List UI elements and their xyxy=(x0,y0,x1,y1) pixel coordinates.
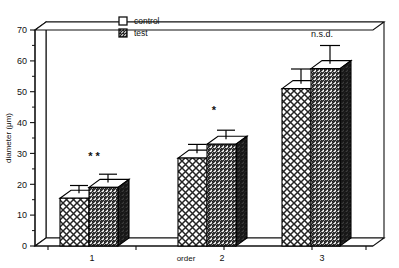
legend-item-test[interactable]: test xyxy=(119,28,148,38)
bar-test-3[interactable] xyxy=(311,61,351,246)
bar-side-face xyxy=(236,136,247,246)
y-tick-label-50: 50 xyxy=(17,87,27,97)
crosshatch-swatch-icon xyxy=(119,17,127,25)
hatch-swatch-icon xyxy=(119,29,127,37)
x-axis: 1 2 3 order xyxy=(35,246,373,263)
bar-test-2[interactable] xyxy=(207,136,247,246)
y-tick-label-0: 0 xyxy=(22,241,27,251)
bar-front-face xyxy=(282,89,311,246)
y-tick-label-10: 10 xyxy=(17,210,27,220)
legend-label-control: control xyxy=(134,16,160,26)
legend-item-control[interactable]: control xyxy=(119,16,160,26)
bar-front-face xyxy=(311,69,340,246)
bar-test-1[interactable] xyxy=(89,179,129,246)
legend-label-test: test xyxy=(134,28,148,38)
y-tick-label-40: 40 xyxy=(17,118,27,128)
annotation-group-3: n.s.d. xyxy=(311,29,333,39)
y-tick-label-70: 70 xyxy=(17,25,27,35)
y-axis: 0 10 20 30 40 50 60 70 diameter (μm) xyxy=(4,25,35,251)
bar-side-face xyxy=(118,179,129,246)
chart-figure: 0 10 20 30 40 50 60 70 diameter (μm) 1 2… xyxy=(0,0,399,268)
bar-front-face xyxy=(178,158,207,246)
annotation-group-1: * * xyxy=(88,150,100,162)
y-tick-label-20: 20 xyxy=(17,180,27,190)
left-depth-wall xyxy=(35,22,46,246)
annotation-group-2: * xyxy=(212,104,217,116)
bar-front-face xyxy=(60,198,89,246)
bar-front-face xyxy=(207,144,236,246)
bar-chart-svg: 0 10 20 30 40 50 60 70 diameter (μm) 1 2… xyxy=(0,0,399,268)
x-axis-label: order xyxy=(177,254,196,263)
y-axis-label: diameter (μm) xyxy=(4,113,13,163)
y-tick-label-60: 60 xyxy=(17,56,27,66)
y-tick-label-30: 30 xyxy=(17,149,27,159)
x-tick-label-2: 2 xyxy=(219,253,224,263)
x-tick-label-1: 1 xyxy=(89,253,94,263)
bar-side-face xyxy=(340,61,351,246)
x-tick-label-3: 3 xyxy=(319,253,324,263)
bar-front-face xyxy=(89,187,118,246)
